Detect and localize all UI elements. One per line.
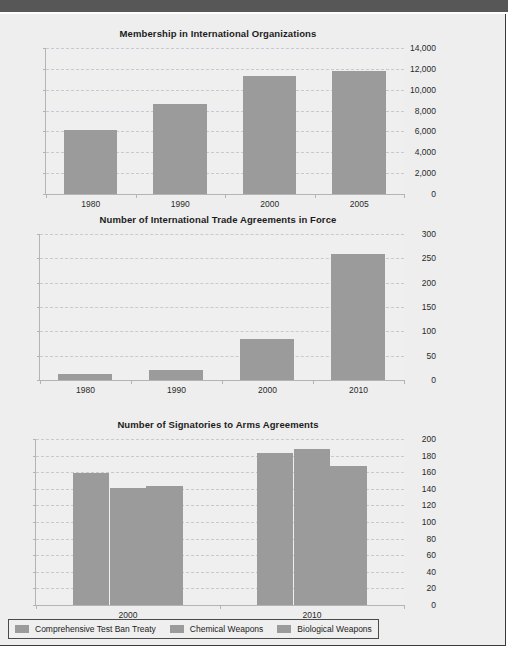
y-axis-line: [39, 234, 40, 380]
y-axis-tick-label: 200: [401, 278, 436, 288]
y-axis-tick-label: 14,000: [395, 43, 436, 53]
bar: [149, 370, 203, 380]
plot-canvas: [46, 48, 404, 194]
chart-title: Number of Signatories to Arms Agreements: [0, 419, 436, 431]
chart-title: Number of International Trade Agreements…: [0, 214, 436, 226]
y-axis-tick-label: 40: [405, 567, 436, 577]
bar: [153, 104, 206, 194]
legend-item[interactable]: Biological Weapons: [277, 624, 372, 634]
gridline: [46, 69, 404, 70]
x-axis-tick-label: 1990: [167, 385, 186, 395]
x-axis-tick-label: 2005: [350, 199, 369, 209]
x-axis-tick-label: 1980: [81, 199, 100, 209]
bar: [257, 453, 293, 605]
y-axis-tick-label: 100: [401, 326, 436, 336]
x-axis-tick-mark: [315, 194, 316, 198]
bar: [294, 449, 330, 605]
y-axis-tick-label: 300: [401, 229, 436, 239]
bar: [64, 130, 117, 194]
chart-international-trade-agreements: Number of International Trade Agreements…: [0, 214, 436, 398]
x-axis-tick-mark: [225, 194, 226, 198]
chart-legend: Comprehensive Test Ban TreatyChemical We…: [8, 619, 379, 639]
bar: [146, 486, 182, 605]
bar: [110, 488, 146, 605]
document-page: Membership in International Organization…: [0, 14, 506, 646]
top-decorative-bar: [0, 0, 508, 12]
x-axis-tick-mark: [220, 605, 221, 609]
legend-item[interactable]: Chemical Weapons: [170, 624, 264, 634]
x-axis-tick-label: 2000: [260, 199, 279, 209]
legend-label: Comprehensive Test Ban Treaty: [35, 624, 156, 634]
y-axis-tick-label: 60: [405, 550, 436, 560]
x-axis-tick-label: 1980: [76, 385, 95, 395]
bar: [330, 466, 366, 605]
gridline: [36, 439, 404, 440]
x-axis-tick-label: 2000: [258, 385, 277, 395]
bar: [331, 254, 385, 380]
y-axis-tick-label: 8,000: [395, 106, 436, 116]
y-axis-tick-label: 0: [405, 600, 436, 610]
y-axis-tick-label: 180: [405, 451, 436, 461]
x-axis-tick-mark: [404, 380, 405, 384]
legend-swatch-icon: [15, 625, 29, 633]
plot-area: 02040608010012014016018020020002010: [0, 435, 436, 623]
plot-canvas: [36, 439, 404, 605]
legend-item[interactable]: Comprehensive Test Ban Treaty: [15, 624, 156, 634]
gridline: [36, 456, 404, 457]
y-axis-tick-label: 4,000: [395, 147, 436, 157]
gridline: [46, 48, 404, 49]
y-axis-tick-label: 200: [405, 434, 436, 444]
x-axis-tick-mark: [222, 380, 223, 384]
chart-membership-international-organizations: Membership in International Organization…: [0, 28, 436, 212]
bar: [332, 71, 385, 194]
plot-area: 0501001502002503001980199020002010: [0, 230, 436, 398]
bar: [73, 473, 109, 605]
x-axis-tick-mark: [136, 194, 137, 198]
legend-swatch-icon: [277, 625, 291, 633]
gridline: [40, 234, 404, 235]
x-axis-tick-mark: [313, 380, 314, 384]
y-axis-tick-label: 20: [405, 583, 436, 593]
y-axis-tick-label: 250: [401, 253, 436, 263]
legend-label: Biological Weapons: [297, 624, 372, 634]
chart-signatories-arms-agreements: Number of Signatories to Arms Agreements…: [0, 419, 436, 623]
x-axis-tick-mark: [36, 605, 37, 609]
x-axis-tick-label: 2010: [349, 385, 368, 395]
x-axis-tick-mark: [40, 380, 41, 384]
y-axis-tick-label: 0: [401, 375, 436, 385]
legend-label: Chemical Weapons: [190, 624, 264, 634]
x-axis-tick-mark: [404, 194, 405, 198]
y-axis-tick-label: 140: [405, 484, 436, 494]
y-axis-tick-label: 2,000: [395, 168, 436, 178]
y-axis-line: [35, 439, 36, 605]
x-axis-tick-mark: [131, 380, 132, 384]
chart-title: Membership in International Organization…: [0, 28, 436, 40]
x-axis-tick-mark: [46, 194, 47, 198]
y-axis-tick-label: 10,000: [395, 85, 436, 95]
y-axis-tick-label: 50: [401, 351, 436, 361]
y-axis-tick-label: 80: [405, 534, 436, 544]
legend-swatch-icon: [170, 625, 184, 633]
y-axis-tick-label: 12,000: [395, 64, 436, 74]
y-axis-line: [45, 48, 46, 194]
y-axis-tick-label: 120: [405, 500, 436, 510]
x-axis-tick-mark: [404, 605, 405, 609]
bar: [240, 339, 294, 380]
plot-area: 02,0004,0006,0008,00010,00012,00014,0001…: [0, 44, 436, 212]
y-axis-tick-label: 150: [401, 302, 436, 312]
y-axis-tick-label: 160: [405, 467, 436, 477]
y-axis-tick-label: 100: [405, 517, 436, 527]
x-axis-tick-label: 1990: [171, 199, 190, 209]
plot-canvas: [40, 234, 404, 380]
y-axis-tick-label: 6,000: [395, 126, 436, 136]
bar: [243, 76, 296, 194]
